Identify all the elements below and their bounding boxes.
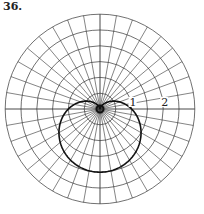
radius-label-1: 1 <box>130 96 137 109</box>
radius-label-2: 2 <box>161 96 168 109</box>
polar-graph: 12 <box>0 0 204 214</box>
radius-tick-labels: 12 <box>129 96 169 109</box>
